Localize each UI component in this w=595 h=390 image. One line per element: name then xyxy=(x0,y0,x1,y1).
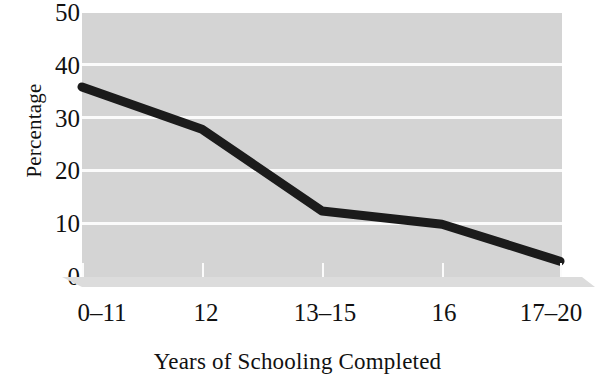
x-tick-label: 13–15 xyxy=(294,300,357,325)
y-tick-label: 30 xyxy=(30,106,80,131)
x-tick xyxy=(82,263,84,277)
x-tick xyxy=(322,263,324,277)
x-tick-label: 16 xyxy=(432,300,457,325)
y-tick-label: 50 xyxy=(30,0,80,25)
line-chart: Percentage 50 40 30 20 10 0 0–11 12 13– xyxy=(0,0,595,390)
axis-base-right-bevel xyxy=(582,277,595,287)
axis-base-left-bevel xyxy=(62,277,82,287)
x-tick-label: 0–11 xyxy=(77,300,126,325)
x-tick-label: 17–20 xyxy=(520,300,583,325)
axis-base-top xyxy=(82,277,582,287)
x-axis-tick-labels: 0–11 12 13–15 16 17–20 xyxy=(0,300,595,336)
data-series-line xyxy=(82,13,562,277)
y-axis-tick-labels: 50 40 30 20 10 0 xyxy=(30,0,80,290)
series-polyline xyxy=(82,87,560,261)
y-tick-label: 40 xyxy=(30,53,80,78)
axis-base xyxy=(62,277,595,292)
plot-area xyxy=(82,13,562,277)
x-tick xyxy=(442,263,444,277)
y-tick-label: 10 xyxy=(30,211,80,236)
x-tick xyxy=(560,263,562,277)
x-tick xyxy=(202,263,204,277)
x-tick-label: 12 xyxy=(194,300,219,325)
y-tick-label: 20 xyxy=(30,158,80,183)
x-axis-title: Years of Schooling Completed xyxy=(0,349,595,375)
